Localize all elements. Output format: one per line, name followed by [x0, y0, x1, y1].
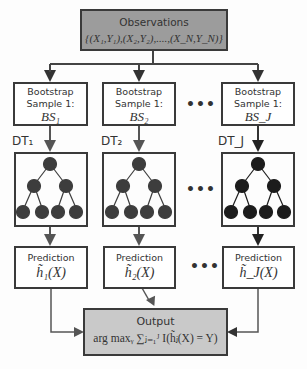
- observations-box: Observations {(X₁,Y₁),(X₂,Y₂),....,(X_N,…: [80, 9, 228, 51]
- prediction-label: Prediction: [224, 252, 293, 264]
- prediction-box-j: Prediction h̃_J(X): [222, 246, 295, 289]
- tree-label-2: DT₂: [101, 134, 122, 148]
- bootstrap-label: Bootstrap: [223, 86, 293, 98]
- bootstrap-label: Bootstrap: [15, 86, 86, 98]
- bootstrap-box-2: Bootstrap Sample 1: BS₂: [102, 82, 176, 126]
- prediction-formula: h̃_J(X): [224, 266, 293, 280]
- bootstrap-label: Bootstrap: [104, 86, 174, 98]
- bootstrap-set: BS_J: [223, 110, 293, 124]
- tree-label-1: DT₁: [12, 134, 33, 148]
- prediction-formula: h̃₂(X): [105, 266, 174, 280]
- prediction-formula: h̃₁(X): [16, 266, 86, 280]
- prediction-label: Prediction: [16, 252, 86, 264]
- bootstrap-box-1: Bootstrap Sample 1: BS₁: [13, 82, 88, 126]
- ellipsis-predictions: •••: [190, 258, 220, 274]
- bootstrap-set: BS₂: [104, 110, 174, 124]
- bootstrap-set: BS₁: [15, 110, 86, 124]
- tree-label-j: DT_J: [218, 134, 244, 148]
- random-forest-diagram: Observations {(X₁,Y₁),(X₂,Y₂),....,(X_N,…: [0, 0, 307, 369]
- tree-box-1: [14, 152, 88, 227]
- tree-box-j: [221, 152, 295, 227]
- observations-formula: {(X₁,Y₁),(X₂,Y₂),....,(X_N,Y_N)}: [82, 31, 226, 45]
- observations-title: Observations: [82, 16, 226, 28]
- bootstrap-box-j: Bootstrap Sample 1: BS_J: [221, 82, 295, 126]
- output-box: Output arg maxᵧ ∑ⱼ₌₁ᴶ I(h̃ⱼ(X) = Y): [83, 308, 228, 356]
- output-formula: arg maxᵧ ∑ⱼ₌₁ᴶ I(h̃ⱼ(X) = Y): [85, 331, 226, 345]
- prediction-box-2: Prediction h̃₂(X): [103, 246, 176, 289]
- prediction-label: Prediction: [105, 252, 174, 264]
- ellipsis-bootstrap: •••: [186, 96, 216, 112]
- tree-box-2: [102, 152, 176, 227]
- ellipsis-trees: •••: [186, 181, 216, 197]
- output-title: Output: [85, 316, 226, 328]
- prediction-box-1: Prediction h̃₁(X): [14, 246, 88, 289]
